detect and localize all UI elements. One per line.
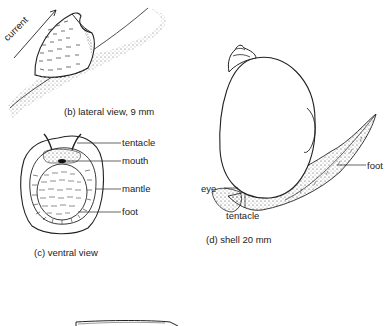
label-tentacle-d: tentacle	[226, 210, 259, 221]
panel-b-drawing	[8, 8, 166, 118]
panel-d-drawing	[212, 45, 376, 212]
panel-b-caption: (b) lateral view, 9 mm	[64, 106, 154, 117]
label-foot-d: foot	[367, 160, 383, 171]
panel-c-drawing	[21, 134, 121, 234]
panel-e-partial-drawing	[76, 321, 178, 326]
label-mouth: mouth	[122, 155, 148, 166]
label-mantle: mantle	[122, 183, 151, 194]
label-eye: eye	[201, 183, 216, 194]
limpet-illustration	[0, 0, 392, 326]
label-tentacle-c: tentacle	[122, 137, 155, 148]
panel-d-caption: (d) shell 20 mm	[206, 234, 271, 245]
label-foot-c: foot	[122, 206, 138, 217]
panel-c-caption: (c) ventral view	[34, 247, 98, 258]
